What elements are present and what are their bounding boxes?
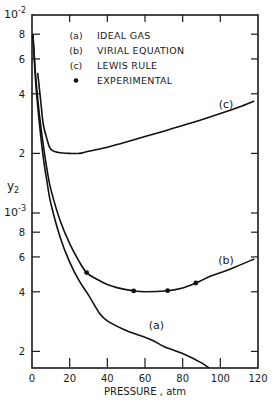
y-decade-label-mid: 10-3 [4,204,26,219]
legend-marker-dot [74,78,79,83]
y-axis-label: y2 [7,179,19,195]
y-tick-label: 8 [19,227,25,238]
curve-label: (a) [149,319,164,332]
y-tick-label: 2 [19,346,25,357]
legend-label: VIRIAL EQUATION [97,45,184,56]
curve-label: (b) [218,254,234,267]
y-tick-label: 8 [19,29,25,40]
y-tick-label: 2 [19,148,25,159]
x-tick-label: 80 [176,373,189,384]
legend-label: LEWIS RULE [97,60,157,71]
legend: (a)IDEAL GAS(b)VIRIAL EQUATION(c)LEWIS R… [69,30,184,86]
x-tick-label: 100 [211,373,230,384]
y-tick-label: 6 [19,54,25,65]
experimental-point [84,270,89,275]
experimental-point [165,288,170,293]
y-tick-label: 4 [19,287,25,298]
legend-label: EXPERIMENTAL [97,75,173,86]
y-tick-label: 4 [19,89,25,100]
experimental-point [193,281,198,286]
experimental-point [131,289,136,294]
x-tick-label: 120 [248,373,267,384]
curve-label: (c) [219,98,234,111]
chart: 02040608010012086428642 (a)(b)(c) (a)IDE… [0,0,273,400]
x-axis-label: PRESSURE , atm [104,386,186,397]
legend-key: (c) [70,60,83,71]
legend-label: IDEAL GAS [97,30,151,41]
legend-key: (b) [69,45,82,56]
legend-key: (a) [69,30,82,41]
x-tick-label: 60 [139,373,152,384]
y-tick-label: 6 [19,252,25,263]
x-tick-label: 0 [29,373,35,384]
x-tick-label: 20 [63,373,76,384]
curve-annotations: (a)(b)(c) [149,98,234,332]
x-tick-label: 40 [101,373,114,384]
y-decade-label-top: 10-2 [4,6,26,21]
